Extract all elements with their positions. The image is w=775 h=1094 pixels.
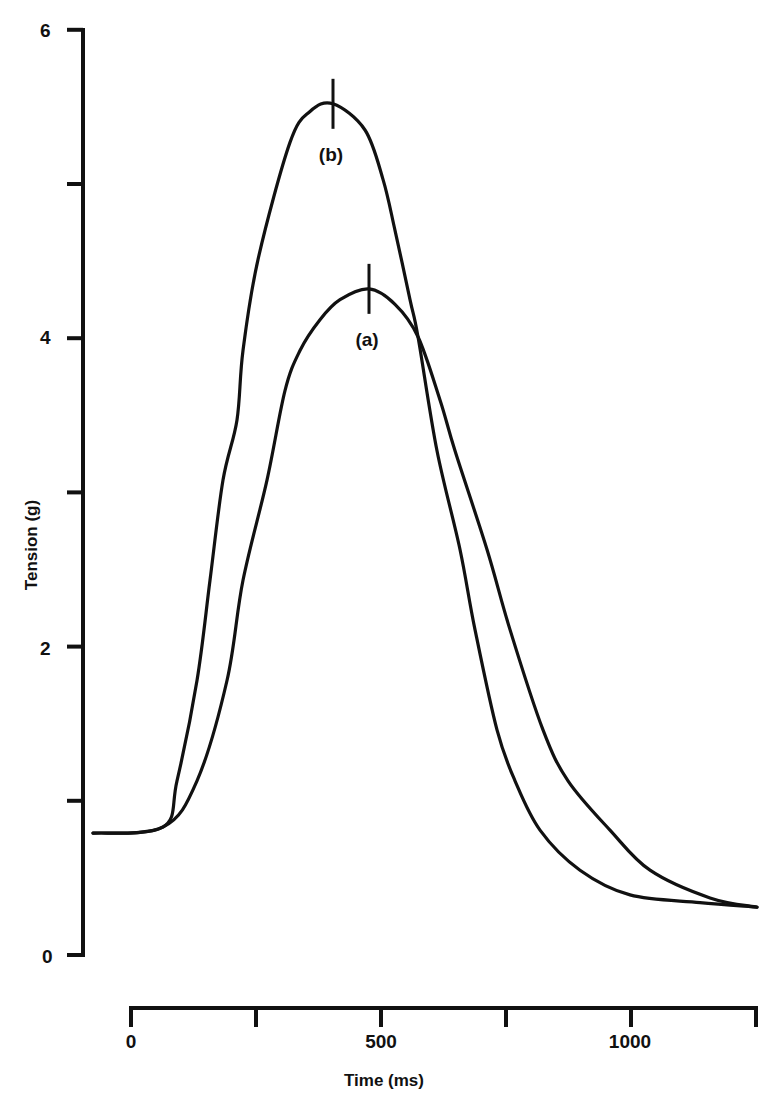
y-tick-label-6: 6 [40, 20, 51, 41]
curve-b [93, 103, 757, 907]
curve-label-a: (a) [355, 329, 378, 350]
y-axis-ticks [67, 30, 83, 955]
y-tick-label-0: 0 [42, 946, 53, 967]
curve-label-b: (b) [319, 144, 343, 165]
plot-area: (a) (b) [93, 79, 757, 907]
tension-time-chart: 6 4 2 0 Tension (g) 0 500 1000 Time (ms)… [0, 0, 775, 1094]
x-tick-label-500: 500 [365, 1031, 397, 1052]
x-axis-title: Time (ms) [344, 1071, 424, 1090]
y-tick-label-4: 4 [40, 327, 51, 348]
x-tick-label-1000: 1000 [609, 1031, 651, 1052]
y-tick-label-2: 2 [40, 638, 51, 659]
y-axis: 6 4 2 0 Tension (g) [22, 20, 83, 967]
x-tick-label-0: 0 [126, 1031, 137, 1052]
x-axis: 0 500 1000 Time (ms) [126, 1006, 758, 1090]
y-axis-title: Tension (g) [22, 500, 41, 590]
